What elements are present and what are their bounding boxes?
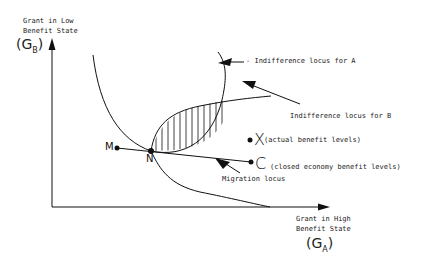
x-axis (52, 204, 330, 211)
label-point-c: C (255, 154, 266, 173)
migration-locus (117, 148, 251, 162)
diagram-canvas (0, 0, 428, 263)
label-point-m: M (105, 141, 114, 152)
label-point-n: N (146, 153, 153, 164)
label-locus-b: Indifference locus for B (290, 112, 391, 121)
y-axis-label-line1: Grant in Low (23, 17, 74, 26)
label-point-x: X (254, 130, 265, 149)
label-closed: (closed economy benefit levels) (270, 163, 401, 172)
label-migration: Migration locus (222, 175, 285, 184)
arrow-locus-b (242, 81, 300, 104)
y-axis (49, 38, 56, 207)
label-locus-a: - Indifference locus for A (246, 57, 356, 66)
y-axis-symbol: (GB) (16, 36, 43, 55)
y-axis-label-line2: Benefit State (23, 27, 78, 36)
x-axis-label-line2: Benefit State (296, 225, 351, 234)
hatched-region (156, 95, 222, 160)
label-actual: (actual benefit levels) (264, 136, 361, 145)
x-axis-symbol: (GA) (306, 235, 333, 254)
point-c (249, 160, 254, 165)
x-axis-label-line1: Grant in High (296, 215, 351, 224)
point-m (115, 146, 120, 151)
indifference-locus-a (93, 52, 225, 152)
point-x (248, 138, 253, 143)
indifference-locus-b-upper (151, 96, 271, 151)
